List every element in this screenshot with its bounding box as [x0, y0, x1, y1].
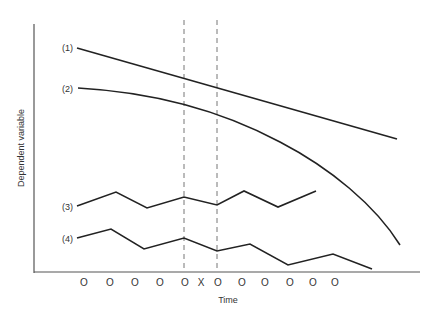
series-3-label: (3): [62, 202, 73, 212]
time-marker-observation: O: [309, 277, 317, 288]
time-marker-treatment: X: [198, 277, 205, 288]
time-marker-observation: O: [156, 277, 164, 288]
y-axis-label: Dependent variable: [16, 109, 26, 187]
time-marker-observation: O: [106, 277, 114, 288]
time-marker-observation: O: [261, 277, 269, 288]
series-2-label: (2): [62, 84, 73, 94]
time-marker-observation: O: [131, 277, 139, 288]
series-4-line: [77, 229, 372, 269]
series-1-line: [77, 48, 397, 139]
time-marker-observation: O: [80, 277, 88, 288]
time-marker-observation: O: [238, 277, 246, 288]
time-marker-observation: O: [286, 277, 294, 288]
time-series-diagram: (1) (2) (3) (4) O O O O O X O O O O O O …: [0, 0, 437, 315]
x-axis-label: Time: [218, 295, 238, 305]
series-4-label: (4): [62, 234, 73, 244]
time-marker-observation: O: [181, 277, 189, 288]
series-3-line: [77, 191, 316, 208]
time-marker-observation: O: [331, 277, 339, 288]
series-1-label: (1): [62, 43, 73, 53]
time-marker-observation: O: [214, 277, 222, 288]
series-2-curve: [78, 88, 400, 245]
